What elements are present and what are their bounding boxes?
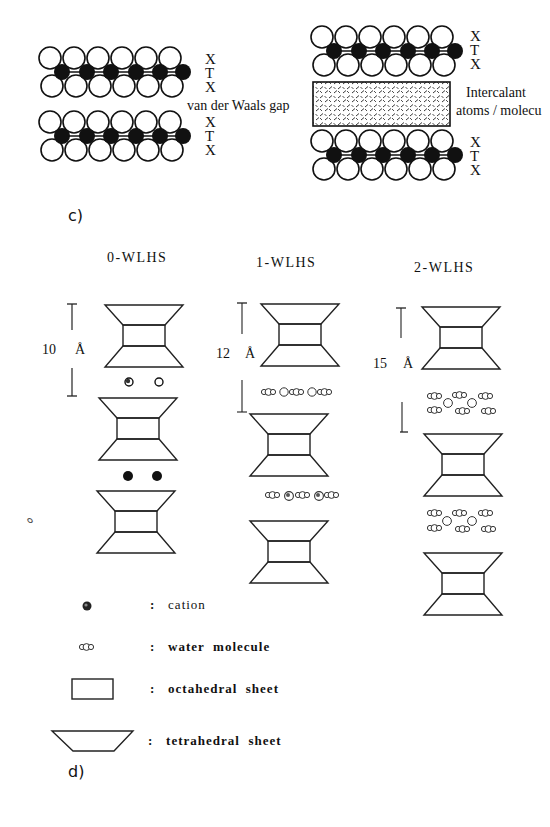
right-lower-layer-labels: X T X bbox=[470, 135, 481, 177]
left-lower-layer-labels: X T X bbox=[205, 115, 216, 157]
legend-cation-symbol bbox=[83, 602, 92, 611]
label-x: X bbox=[205, 143, 216, 157]
spacing-unit-angstrom: Å bbox=[75, 343, 85, 357]
water-bilayer bbox=[427, 510, 495, 533]
label-t: T bbox=[470, 149, 481, 163]
spacing-value-15: 15 bbox=[373, 357, 387, 371]
intercalant-label-line2: atoms / molecu bbox=[456, 104, 542, 118]
label-x: X bbox=[205, 80, 216, 94]
label-x: X bbox=[470, 135, 481, 149]
van-der-waals-gap-label: van der Waals gap bbox=[187, 99, 289, 113]
label-t: T bbox=[205, 66, 216, 80]
legend-text: cation bbox=[168, 597, 206, 612]
column-title-1-wlhs: 1-WLHS bbox=[256, 256, 316, 270]
column-1-wlhs bbox=[237, 303, 339, 583]
cation-icon bbox=[123, 471, 133, 481]
label-t: T bbox=[470, 43, 481, 57]
legend-tetrahedral-symbol bbox=[52, 731, 133, 751]
label-x: X bbox=[470, 57, 481, 71]
cation-icon bbox=[155, 378, 163, 386]
legend-text: tetrahedral sheet bbox=[166, 733, 281, 748]
label-t: T bbox=[205, 129, 216, 143]
spacing-value-10: 10 bbox=[42, 343, 56, 357]
spacing-value-12: 12 bbox=[216, 347, 230, 361]
legend-item-cation: : cation bbox=[150, 598, 206, 611]
svg-text:ⴰ: ⴰ bbox=[24, 512, 38, 527]
label-x: X bbox=[205, 52, 216, 66]
panel-c-label: c) bbox=[68, 208, 83, 224]
right-upper-layer-labels: X T X bbox=[470, 29, 481, 71]
tmd-layer-right-lower bbox=[311, 130, 463, 180]
column-title-2-wlhs: 2-WLHS bbox=[414, 261, 474, 275]
left-upper-layer-labels: X T X bbox=[205, 52, 216, 94]
legend-item-tetrahedral-sheet: : tetrahedral sheet bbox=[148, 734, 282, 747]
spacing-unit-angstrom: Å bbox=[245, 347, 255, 361]
legend-item-water-molecule: : water molecule bbox=[150, 640, 270, 653]
legend-text: octahedral sheet bbox=[168, 681, 279, 696]
legend-octahedral-symbol bbox=[72, 679, 113, 699]
legend-separator: : bbox=[150, 639, 155, 654]
diagram-canvas: ⴰ bbox=[0, 0, 550, 827]
label-x: X bbox=[205, 115, 216, 129]
cation-icon bbox=[152, 471, 162, 481]
water-bilayer bbox=[427, 392, 495, 415]
tmd-layer-left-upper bbox=[39, 47, 191, 97]
legend-text: water molecule bbox=[168, 639, 270, 654]
legend-water-symbol bbox=[79, 644, 93, 651]
panel-d-label: d) bbox=[68, 764, 84, 780]
legend-separator: : bbox=[150, 681, 155, 696]
legend-item-octahedral-sheet: : octahedral sheet bbox=[150, 682, 279, 695]
legend-separator: : bbox=[150, 597, 155, 612]
intercalant-region bbox=[313, 82, 450, 126]
legend-separator: : bbox=[148, 733, 153, 748]
water-layer bbox=[261, 388, 331, 396]
label-x: X bbox=[470, 163, 481, 177]
tmd-layer-right-upper bbox=[311, 26, 463, 76]
spacing-unit-angstrom: Å bbox=[403, 357, 413, 371]
column-2-wlhs bbox=[396, 307, 502, 615]
intercalant-label-line1: Intercalant bbox=[466, 86, 526, 100]
label-x: X bbox=[470, 29, 481, 43]
column-title-0-wlhs: 0-WLHS bbox=[107, 251, 167, 265]
water-layer bbox=[265, 492, 338, 501]
tmd-layer-left-lower bbox=[39, 111, 191, 161]
